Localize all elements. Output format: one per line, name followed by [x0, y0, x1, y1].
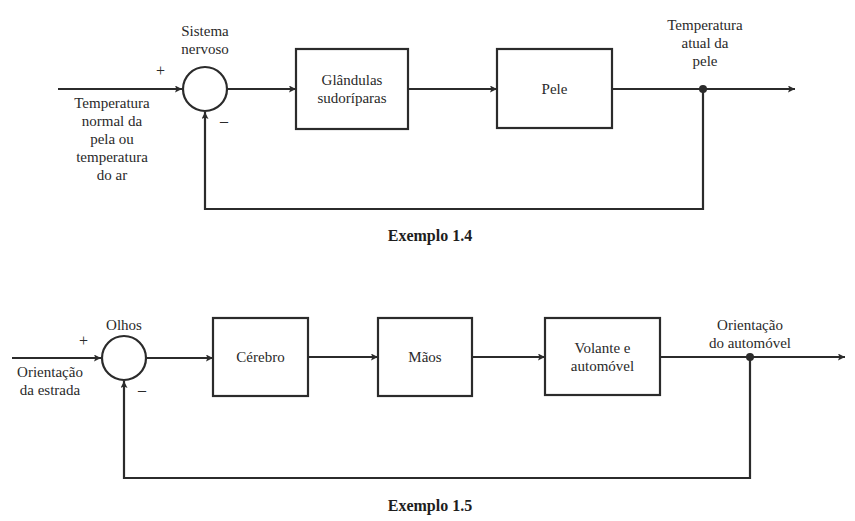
block-label-line: sudoríparas	[317, 89, 386, 107]
block-glandulas-label: Glândulas sudoríparas	[296, 49, 408, 129]
minus-sign-1: –	[220, 112, 228, 130]
block-pele-label: Pele	[497, 49, 612, 128]
input-label-line: temperatura	[52, 148, 172, 166]
junction-label-2: Olhos	[94, 316, 154, 334]
plus-sign-2: +	[79, 332, 88, 350]
output-label-line: atual da	[650, 34, 760, 52]
block-label-line: Volante e	[571, 339, 634, 357]
input-label-2: Orientação da estrada	[4, 363, 96, 399]
junction-label-1: Sistema nervoso	[160, 22, 250, 58]
output-label-line: pele	[650, 52, 760, 70]
input-label-line: do ar	[52, 166, 172, 184]
block-label-line: Cérebro	[236, 348, 284, 366]
block-cerebro-label: Cérebro	[213, 318, 308, 396]
output-label-line: Temperatura	[650, 16, 760, 34]
takeoff-point-1	[699, 85, 707, 93]
diagram-lines	[0, 0, 855, 521]
block-volante-label: Volante e automóvel	[545, 318, 660, 395]
block-label-line: Glândulas	[317, 71, 386, 89]
block-label-line: Mãos	[408, 348, 441, 366]
caption-exemplo-1-4: Exemplo 1.4	[330, 227, 530, 245]
output-label-1: Temperatura atual da pele	[650, 16, 760, 70]
input-label-line: da estrada	[4, 381, 96, 399]
output-label-line: do automóvel	[690, 334, 810, 352]
block-label-line: automóvel	[571, 357, 634, 375]
output-label-line: Orientação	[690, 316, 810, 334]
feedback-path-1	[205, 89, 703, 209]
junction-label-line: nervoso	[160, 40, 250, 58]
block-label-line: Pele	[542, 80, 568, 98]
input-label-line: normal da	[52, 112, 172, 130]
caption-exemplo-1-5: Exemplo 1.5	[330, 497, 530, 515]
summing-junction-1	[183, 67, 227, 111]
minus-sign-2: –	[138, 381, 146, 399]
takeoff-point-2	[746, 353, 754, 361]
output-label-2: Orientação do automóvel	[690, 316, 810, 352]
input-label-line: Temperatura	[52, 94, 172, 112]
junction-label-line: Sistema	[160, 22, 250, 40]
block-maos-label: Mãos	[378, 318, 472, 396]
plus-sign-1: +	[156, 62, 165, 80]
input-label-1: Temperatura normal da pela ou temperatur…	[52, 94, 172, 184]
input-label-line: Orientação	[4, 363, 96, 381]
input-label-line: pela ou	[52, 130, 172, 148]
summing-junction-2	[102, 336, 146, 380]
